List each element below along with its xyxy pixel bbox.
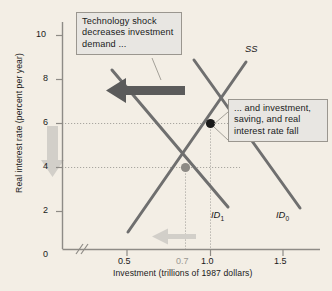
chart-figure: Technology shock decreases investment de… xyxy=(0,0,332,291)
x-tick-label-1-5: 1.5 xyxy=(274,256,287,266)
leader-line-fall xyxy=(214,112,228,124)
y-tick-label-8: 8 xyxy=(43,73,48,83)
annotation-line: interest rate fall xyxy=(234,126,322,137)
x-tick-label-0-5: 0.5 xyxy=(118,256,131,266)
curve-label-ID1: ID1 xyxy=(211,209,224,222)
curve-label-SS: SS xyxy=(245,43,258,54)
annotation-line: decreases investment xyxy=(82,27,176,38)
curve-label-ID0: ID0 xyxy=(276,209,289,222)
investment-fall-arrow xyxy=(152,228,196,245)
annotation-line: demand ... xyxy=(82,39,176,50)
leader-line-shock xyxy=(152,58,161,80)
x-tick-label-1-0: 1.0 xyxy=(201,256,214,266)
leader-line-fall-2 xyxy=(214,127,228,140)
equilibrium-dot-new xyxy=(181,163,190,172)
curve-label-ID1-sub: 1 xyxy=(220,215,224,222)
curves xyxy=(112,60,300,232)
y-tick-label-6: 6 xyxy=(43,117,48,127)
y-tick-label-4: 4 xyxy=(43,161,48,171)
annotation-technology-shock: Technology shock decreases investment de… xyxy=(76,12,182,55)
curve-label-ID1-text: ID xyxy=(211,209,220,220)
x-axis-title: Investment (trillions of 1987 dollars) xyxy=(113,268,252,278)
annotation-leader-lines xyxy=(152,58,228,140)
demand-shift-arrow xyxy=(106,78,185,103)
y-axis-title: Real interest rate (percent per year) xyxy=(14,43,24,203)
y-tick-label-10: 10 xyxy=(36,29,46,39)
annotation-rates-fall: ... and investment, saving, and real int… xyxy=(228,99,328,142)
annotation-line: ... and investment, xyxy=(234,103,322,114)
guide-lines xyxy=(62,124,240,250)
y-tick-label-2: 2 xyxy=(43,205,48,215)
curve-label-ID0-sub: 0 xyxy=(285,215,289,222)
y-tick-label-0: 0 xyxy=(43,249,48,259)
curve-label-ID0-text: ID xyxy=(276,209,285,220)
annotation-line: saving, and real xyxy=(234,114,322,125)
annotation-line: Technology shock xyxy=(82,16,176,27)
x-tick-label-0-7: 0.7 xyxy=(176,256,189,266)
equilibrium-dot-initial xyxy=(206,119,215,128)
